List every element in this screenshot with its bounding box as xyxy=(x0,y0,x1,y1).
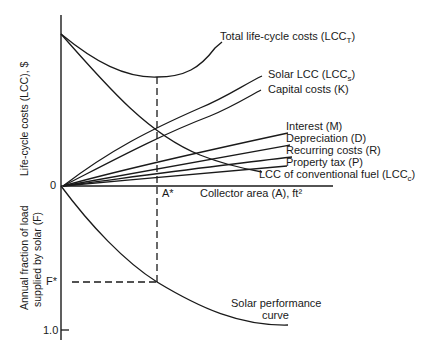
label-interest: Interest (M) xyxy=(286,120,342,132)
curve-solar-lcc xyxy=(63,76,262,186)
label-solar-lcc: Solar LCC (LCCs) xyxy=(268,68,355,83)
label-solar-performance-line1: Solar performance xyxy=(231,297,322,309)
label-conventional-fuel-lcc: LCC of conventional fuel (LCCc) xyxy=(259,168,415,183)
y-axis-label-fraction-line1: Annual fraction of load xyxy=(18,205,30,310)
origin-label: 0 xyxy=(50,179,56,191)
label-solar-performance-line2: curve xyxy=(262,309,289,321)
curve-conventional-fuel-lcc xyxy=(61,34,262,172)
label-total-lcc: Total life-cycle costs (LCCT) xyxy=(220,30,355,45)
y-axis-label-fraction-line2: supplied by solar (F) xyxy=(31,212,43,307)
curve-depreciation xyxy=(63,145,290,186)
lcc-optimization-diagram: Life-cycle costs (LCC), $ Annual fractio… xyxy=(0,0,434,357)
y-axis-label-lcc: Life-cycle costs (LCC), $ xyxy=(18,61,30,176)
label-depreciation: Depreciation (D) xyxy=(286,132,366,144)
label-property-tax: Property tax (P) xyxy=(286,156,363,168)
label-recurring-costs: Recurring costs (R) xyxy=(286,144,381,156)
x-axis-label: Collector area (A), ft² xyxy=(200,187,302,199)
curve-total-lcc xyxy=(61,34,222,77)
max-fraction-tick-label: 1.0 xyxy=(43,324,58,336)
optimum-area-label: A* xyxy=(162,187,174,199)
label-capital-costs: Capital costs (K) xyxy=(268,83,349,95)
curve-interest xyxy=(63,133,288,186)
optimum-fraction-label: F* xyxy=(46,275,58,287)
